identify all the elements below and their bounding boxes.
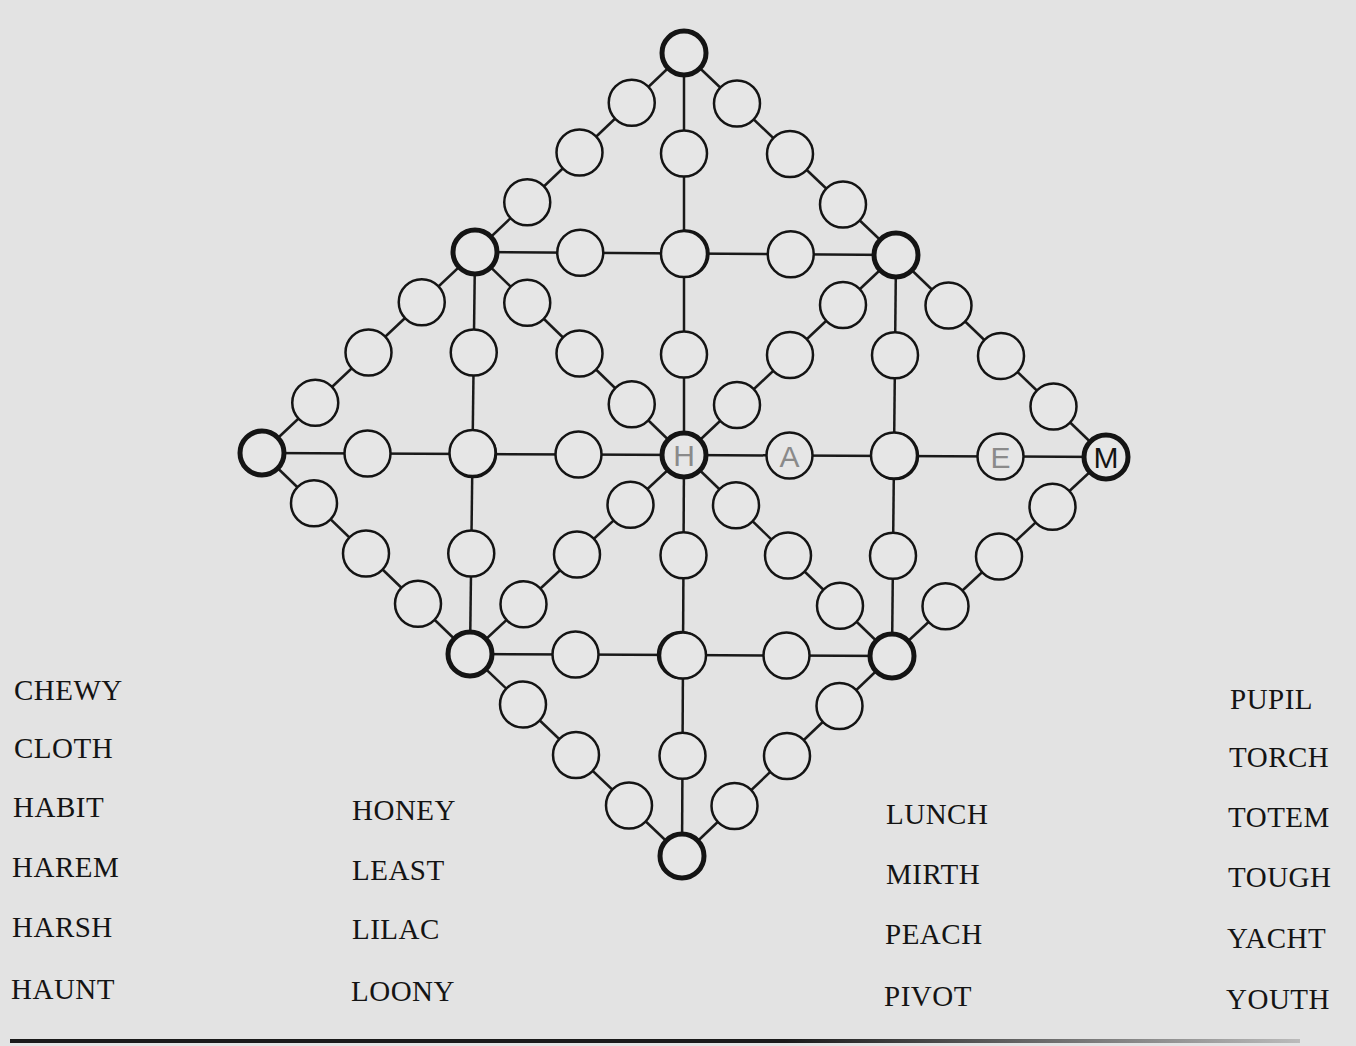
grid-node[interactable] [767,332,813,378]
grid-node[interactable] [556,432,602,478]
grid-node[interactable] [661,532,707,578]
grid-node[interactable] [240,431,284,475]
word-item: LILAC [352,913,440,946]
grid-node[interactable] [660,834,704,878]
grid-node[interactable] [764,733,810,779]
grid-node[interactable] [871,433,917,479]
grid-node[interactable] [345,431,391,477]
grid-node[interactable] [608,482,654,528]
grid-node[interactable] [712,783,758,829]
grid-node[interactable]: A [767,433,813,479]
grid-node[interactable] [768,231,814,277]
grid-node[interactable] [817,683,863,729]
grid-node[interactable] [1031,384,1077,430]
puzzle-grid: MHARE [0,0,1356,1046]
grid-nodes: MHARE [240,31,1128,878]
grid-node[interactable] [453,230,497,274]
word-item: HAUNT [11,973,115,1006]
word-item: MIRTH [886,858,980,891]
word-item: HAREM [12,851,119,884]
word-item: YACHT [1227,922,1326,955]
grid-node[interactable]: E [978,434,1024,480]
word-item: LOONY [351,975,455,1008]
grid-node[interactable] [870,533,916,579]
grid-node[interactable] [399,279,445,325]
grid-node[interactable] [976,534,1022,580]
grid-node[interactable] [714,382,760,428]
grid-node[interactable] [713,482,759,528]
word-item: LEAST [352,854,445,887]
grid-node[interactable] [504,280,550,326]
grid-node[interactable] [1030,484,1076,530]
word-item: HABIT [13,791,104,824]
grid-node[interactable] [923,583,969,629]
word-item: YOUTH [1226,983,1330,1016]
grid-node[interactable] [609,381,655,427]
grid-node[interactable] [501,581,547,627]
grid-node[interactable] [553,632,599,678]
pencil-letter: E [990,441,1010,474]
grid-node[interactable] [504,179,550,225]
grid-node[interactable] [557,230,603,276]
grid-node[interactable] [817,583,863,629]
grid-node[interactable] [395,581,441,627]
grid-node[interactable] [553,732,599,778]
grid-node[interactable] [926,283,972,329]
grid-node[interactable] [346,330,392,376]
grid-node[interactable] [557,130,603,176]
grid-node[interactable] [661,131,707,177]
grid-node[interactable] [661,332,707,378]
word-item: CLOTH [14,732,113,765]
word-item: LUNCH [886,798,988,831]
grid-node[interactable] [660,633,706,679]
grid-node[interactable]: M [1084,435,1128,479]
grid-node[interactable] [606,783,652,829]
word-item: PUPIL [1230,683,1313,716]
grid-node[interactable] [874,233,918,277]
pencil-letter: H [673,439,695,472]
grid-node[interactable] [870,634,914,678]
grid-node[interactable] [557,331,603,377]
grid-node[interactable] [448,632,492,676]
word-item: HONEY [352,794,456,827]
grid-node[interactable] [609,80,655,126]
grid-node[interactable] [767,131,813,177]
grid-node[interactable]: H [662,433,706,477]
grid-node[interactable] [500,682,546,728]
grid-node[interactable] [978,333,1024,379]
word-item: HARSH [12,911,113,944]
word-item: TOTEM [1228,801,1330,834]
grid-node[interactable] [820,182,866,228]
grid-node[interactable] [662,31,706,75]
grid-node[interactable] [292,380,338,426]
grid-node[interactable] [451,330,497,376]
grid-node[interactable] [661,231,707,277]
grid-node[interactable] [765,533,811,579]
word-item: TOUGH [1228,861,1331,894]
grid-node[interactable] [343,531,389,577]
grid-node[interactable] [714,81,760,127]
grid-node[interactable] [448,531,494,577]
grid-node[interactable] [872,332,918,378]
grid-node[interactable] [554,532,600,578]
grid-node[interactable] [660,733,706,779]
grid-node[interactable] [820,282,866,328]
word-item: PIVOT [884,980,972,1013]
grid-node[interactable] [291,480,337,526]
word-item: TORCH [1229,741,1329,774]
given-letter: M [1094,441,1119,474]
grid-node[interactable] [450,430,496,476]
pencil-letter: A [779,440,799,473]
grid-node[interactable] [764,633,810,679]
word-item: CHEWY [14,674,123,707]
word-item: PEACH [885,918,983,951]
bottom-divider [10,1039,1300,1043]
